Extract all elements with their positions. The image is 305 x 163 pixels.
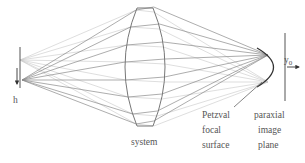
petzval-leader-line [234,82,262,107]
paraxial-label-line3: plane [258,140,279,150]
petzval-label-line2: focal [202,125,221,135]
paraxial-label-line1: paraxial [254,110,285,120]
ray-7 [22,55,268,124]
ray-1 [22,24,268,80]
ray-light-7 [20,60,268,126]
petzval-label-line1: Petzval [202,110,230,120]
system-label: system [131,137,158,147]
petzval-diagram: h system y0 Petzval focal surface paraxi… [0,0,305,163]
petzval-label-line3: surface [202,140,229,150]
paraxial-label-line2: image [258,125,281,135]
ray-bundle [22,7,268,124]
lens-left-surface [125,8,137,126]
object-height-label: h [13,95,18,105]
